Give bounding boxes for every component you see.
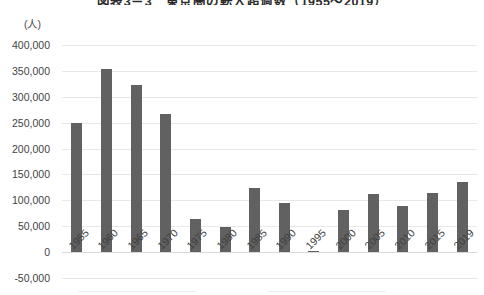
gridline-200000	[62, 149, 477, 150]
y-tick-label: 350,000	[0, 65, 50, 77]
gridline-100000	[62, 200, 477, 201]
gridline-150000	[62, 174, 477, 175]
gridline-0	[62, 252, 477, 253]
gridline-50000	[62, 226, 477, 227]
y-tick-label: 200,000	[0, 143, 50, 155]
chart-title: 図表3－3 東京圏の転入超過数（1955～2019）	[0, 0, 484, 5]
y-tick-label: 150,000	[0, 168, 50, 180]
bar-1960	[101, 69, 112, 252]
gridline--50000	[62, 278, 477, 279]
y-tick-label: 100,000	[0, 194, 50, 206]
page-rule-right	[268, 291, 386, 292]
y-tick-label: 0	[0, 246, 50, 258]
y-tick-label: 250,000	[0, 117, 50, 129]
bar-chart-figure: 図表3－3 東京圏の転入超過数（1955～2019） (人) 400,00035…	[0, 0, 484, 295]
gridline-250000	[62, 123, 477, 124]
x-tick-label: 2015	[422, 226, 447, 251]
plot-area: 400,000350,000300,000250,000200,000150,0…	[62, 45, 477, 278]
x-tick-label: 1995	[303, 226, 328, 251]
y-axis-unit-label: (人)	[24, 16, 41, 31]
gridline-300000	[62, 97, 477, 98]
y-tick-label: -50,000	[0, 272, 50, 284]
page-rule-left	[78, 291, 196, 292]
y-tick-label: 400,000	[0, 39, 50, 51]
gridline-350000	[62, 71, 477, 72]
y-tick-label: 50,000	[0, 220, 50, 232]
x-tick-label: 2000	[333, 226, 358, 251]
x-tick-label: 1985	[244, 226, 269, 251]
gridline-400000	[62, 45, 477, 46]
y-tick-label: 300,000	[0, 91, 50, 103]
